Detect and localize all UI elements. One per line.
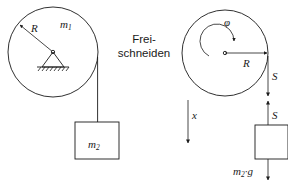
- rotation-arc-phi: [200, 24, 234, 56]
- free-block-right: [255, 125, 288, 159]
- support-hatching: [38, 67, 69, 71]
- pulley-mass-label-left: m1: [60, 18, 72, 32]
- support-triangle: [42, 52, 64, 67]
- caption-line-2: schneiden: [118, 47, 170, 59]
- radius-label-left: R: [30, 22, 38, 34]
- left-system-group: R m1 m2: [8, 7, 119, 159]
- right-system-group: φ R S S m2·g: [182, 10, 288, 180]
- hanging-block-left: [75, 122, 119, 159]
- mechanics-diagram-canvas: R m1 m2 Frei- schneiden x: [0, 0, 288, 186]
- tension-label-upper-S: S: [272, 70, 278, 82]
- caption-line-1: Frei-: [132, 33, 156, 45]
- caption-freischneiden: Frei- schneiden: [118, 33, 170, 59]
- rotation-label-phi: φ: [224, 16, 230, 28]
- weight-label-m2g: m2·g: [233, 165, 253, 179]
- displacement-label-x: x: [191, 109, 197, 121]
- tension-label-lower-S: S: [272, 109, 278, 121]
- radius-label-right: R: [242, 57, 250, 69]
- pulley-free-body-diagram: R m1 m2 Frei- schneiden x: [0, 0, 288, 186]
- displacement-arrow-group: x: [188, 100, 197, 143]
